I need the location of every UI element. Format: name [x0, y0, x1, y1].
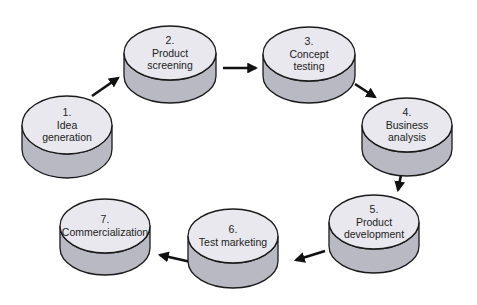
stage-label: Idea — [57, 119, 78, 131]
stage-disks: 1.Ideageneration2.Productscreening3.Conc… — [22, 26, 452, 288]
stage-disk-1: 1.Ideageneration — [22, 96, 112, 178]
stage-label: development — [344, 228, 404, 240]
stage-label: Product — [152, 47, 188, 59]
stage-number: 7. — [101, 213, 110, 225]
stage-label: analysis — [388, 131, 426, 143]
stage-number: 4. — [403, 106, 412, 118]
diagram-canvas: 1.Ideageneration2.Productscreening3.Conc… — [0, 0, 477, 305]
stage-label: Business — [386, 119, 429, 131]
stage-label: screening — [147, 59, 193, 71]
stage-number: 6. — [229, 223, 238, 235]
stage-disk-6: 6.Test marketing — [188, 209, 278, 288]
stage-number: 5. — [370, 203, 379, 215]
arrow-5-to-6 — [296, 251, 325, 260]
stage-label: Product — [356, 216, 392, 228]
stage-disk-2: 2.Productscreening — [124, 26, 216, 103]
product-development-cycle-diagram: 1.Ideageneration2.Productscreening3.Conc… — [0, 0, 477, 305]
stage-disk-3: 3.Concepttesting — [263, 27, 355, 103]
stage-disk-4: 4.Businessanalysis — [362, 98, 452, 176]
stage-label: Test marketing — [199, 236, 267, 248]
stage-number: 2. — [166, 34, 175, 46]
arrow-1-to-2 — [92, 78, 118, 96]
stage-number: 3. — [305, 35, 314, 47]
stage-label: Concept — [289, 48, 328, 60]
stage-number: 1. — [63, 106, 72, 118]
stage-disk-7: 7.Commercialization — [60, 199, 150, 275]
stage-label: generation — [42, 131, 92, 143]
stage-disk-5: 5.Productdevelopment — [329, 195, 419, 273]
arrow-6-to-7 — [160, 255, 191, 262]
stage-label: Commercialization — [62, 226, 149, 238]
stage-label: testing — [294, 60, 325, 72]
arrow-3-to-4 — [355, 84, 375, 97]
